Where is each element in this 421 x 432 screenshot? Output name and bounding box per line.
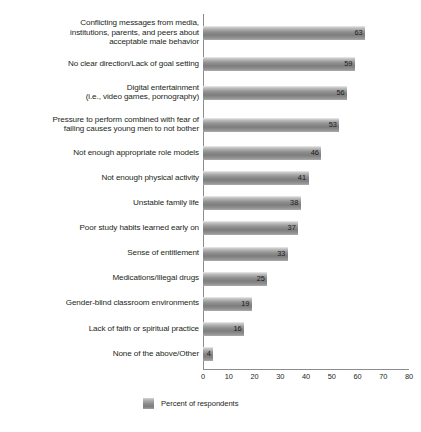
bar-row: Not enough physical activity41 [0, 165, 421, 190]
category-label: Pressure to perform combined with fear o… [9, 115, 199, 134]
chart-legend: Percent of respondents [0, 398, 421, 416]
x-tick-label: 20 [250, 372, 258, 381]
bar-container: 25 [203, 266, 413, 291]
category-label: Not enough physical activity [9, 173, 199, 182]
x-axis-line [203, 369, 409, 370]
category-label: Medications/Illegal drugs [9, 273, 199, 282]
bar-value-label: 16 [203, 322, 244, 335]
bar-row: Medications/Illegal drugs25 [0, 266, 421, 291]
bar-value-label: 38 [203, 196, 301, 209]
category-label: No clear direction/Lack of goal setting [9, 59, 199, 68]
bar-container: 59 [203, 51, 413, 76]
bar-container: 19 [203, 291, 413, 316]
bar-container: 37 [203, 215, 413, 240]
bar-row: Gender-blind classroom environments19 [0, 291, 421, 316]
bar-row: Unstable family life38 [0, 190, 421, 215]
bar-chart: Conflicting messages from media, institu… [0, 0, 421, 432]
x-tick-label: 30 [276, 372, 284, 381]
plot-area: Conflicting messages from media, institu… [0, 14, 421, 374]
bar-value-label: 41 [203, 171, 309, 184]
bar-row: No clear direction/Lack of goal setting5… [0, 51, 421, 76]
bar-container: 38 [203, 190, 413, 215]
category-label: Not enough appropriate role models [9, 148, 199, 157]
bar-container: 16 [203, 316, 413, 341]
category-label: None of the above/Other [9, 349, 199, 358]
bar-rows: Conflicting messages from media, institu… [0, 14, 421, 366]
category-label: Digital entertainment (i.e., video games… [9, 83, 199, 102]
bar-container: 53 [203, 108, 413, 140]
bar-row: Poor study habits learned early on37 [0, 215, 421, 240]
x-axis-ticks: 01020304050607080 [203, 372, 413, 386]
category-label: Gender-blind classroom environments [9, 298, 199, 307]
category-label: Conflicting messages from media, institu… [9, 18, 199, 46]
bar-container: 46 [203, 140, 413, 165]
bar-container: 63 [203, 14, 413, 51]
x-tick-label: 70 [379, 372, 387, 381]
category-label: Unstable family life [9, 198, 199, 207]
category-label: Sense of entitlement [9, 248, 199, 257]
bar-value-label: 4 [203, 347, 213, 360]
bar-value-label: 63 [203, 26, 365, 39]
bar-row: Digital entertainment (i.e., video games… [0, 76, 421, 108]
bar-row: Not enough appropriate role models46 [0, 140, 421, 165]
bar-value-label: 53 [203, 118, 339, 131]
x-tick-label: 80 [405, 372, 413, 381]
bar-value-label: 25 [203, 272, 267, 285]
legend-label: Percent of respondents [161, 399, 238, 408]
bar-container: 4 [203, 341, 413, 366]
x-tick-label: 10 [225, 372, 233, 381]
x-tick-label: 60 [353, 372, 361, 381]
legend-swatch-icon [143, 398, 154, 409]
bar-value-label: 37 [203, 221, 298, 234]
bar-value-label: 56 [203, 86, 347, 99]
bar-row: Sense of entitlement33 [0, 241, 421, 266]
bar-container: 41 [203, 165, 413, 190]
bar-row: Pressure to perform combined with fear o… [0, 108, 421, 140]
category-label: Lack of faith or spiritual practice [9, 324, 199, 333]
category-label: Poor study habits learned early on [9, 223, 199, 232]
bar-value-label: 19 [203, 297, 252, 310]
x-tick-label: 50 [328, 372, 336, 381]
bar-value-label: 46 [203, 146, 321, 159]
bar-container: 56 [203, 76, 413, 108]
bar-row: Lack of faith or spiritual practice16 [0, 316, 421, 341]
bar-value-label: 33 [203, 247, 288, 260]
bar-container: 33 [203, 241, 413, 266]
bar-row: None of the above/Other4 [0, 341, 421, 366]
bar-value-label: 59 [203, 57, 355, 70]
bar-row: Conflicting messages from media, institu… [0, 14, 421, 51]
x-tick-label: 0 [201, 372, 205, 381]
x-tick-label: 40 [302, 372, 310, 381]
